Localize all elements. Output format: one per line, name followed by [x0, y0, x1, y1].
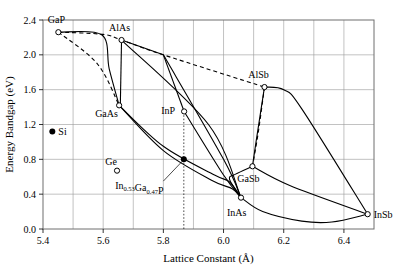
point-label-Si: Si — [58, 126, 67, 137]
point-label-AlAs: AlAs — [109, 22, 130, 33]
x-tick-label: 5.6 — [97, 235, 110, 246]
bandgap-lattice-chart: 5.45.65.86.06.26.40.00.40.81.21.62.02.4L… — [0, 0, 399, 272]
series-GaP-GaAs-solid — [58, 31, 119, 105]
x-tick-label: 5.8 — [157, 235, 170, 246]
x-tick-label: 5.4 — [37, 235, 50, 246]
series-AlAs-GaAs-solid — [120, 40, 121, 105]
y-tick-label: 1.6 — [24, 84, 37, 95]
series-vertex-InP-solid — [163, 55, 184, 112]
point-marker-AlSb[interactable] — [262, 84, 267, 89]
point-marker-GaAs[interactable] — [117, 103, 122, 108]
y-tick-label: 2.0 — [24, 49, 37, 60]
point-label-InSb: InSb — [374, 209, 393, 220]
point-label-GaP: GaP — [48, 14, 66, 25]
series-AlSb-GaSb-solid — [252, 87, 264, 166]
point-label-GaSb: GaSb — [237, 173, 259, 184]
point-marker-AlAs[interactable] — [119, 37, 124, 42]
ingap-annotation-label: In0.53Ga0.47P — [115, 180, 164, 196]
point-label-GaAs: GaAs — [95, 108, 118, 119]
y-tick-label: 1.2 — [24, 119, 37, 130]
point-marker-InP[interactable] — [182, 109, 187, 114]
point-marker-InGaP[interactable] — [181, 156, 187, 162]
ingap-leader-line — [163, 162, 182, 182]
series-GaSb-InSb-solid — [252, 166, 367, 214]
x-tick-label: 6.2 — [277, 235, 290, 246]
point-marker-Ge[interactable] — [114, 168, 119, 173]
x-tick-label: 6.4 — [338, 235, 351, 246]
series-InAs-InSb-solid — [241, 198, 368, 223]
y-tick-label: 2.4 — [24, 15, 37, 26]
point-label-InAs: InAs — [227, 207, 247, 218]
series-GaP-AlAs-dashed — [58, 32, 264, 87]
y-axis-title: Energy Bandgap (eV) — [3, 76, 16, 173]
y-tick-label: 0.8 — [24, 154, 37, 165]
series-GaP-GaAs-dashed — [58, 32, 119, 105]
y-tick-label: 0.4 — [24, 189, 37, 200]
y-tick-label: 0.0 — [24, 224, 37, 235]
chart-svg: 5.45.65.86.06.26.40.00.40.81.21.62.02.4L… — [0, 0, 399, 272]
point-label-AlSb: AlSb — [248, 69, 269, 80]
point-marker-GaP[interactable] — [56, 30, 61, 35]
point-marker-InSb[interactable] — [365, 212, 370, 217]
point-marker-GaSb[interactable] — [250, 164, 255, 169]
point-label-Ge: Ge — [105, 156, 117, 167]
point-marker-Si[interactable] — [49, 128, 55, 134]
x-tick-label: 6.0 — [217, 235, 230, 246]
point-marker-InAs[interactable] — [238, 195, 243, 200]
point-label-InP: InP — [161, 105, 175, 116]
series-AlAs-InP-solid — [122, 40, 164, 55]
x-axis-title: Lattice Constant (Å) — [163, 252, 254, 265]
